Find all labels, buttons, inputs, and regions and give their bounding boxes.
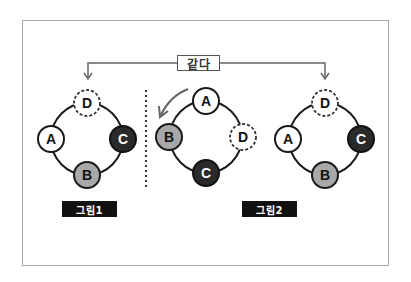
- node-c: C: [348, 126, 374, 152]
- svg-text:C: C: [118, 131, 128, 147]
- svg-text:C: C: [356, 131, 366, 147]
- svg-text:D: D: [82, 95, 92, 111]
- node-d: D: [312, 90, 338, 116]
- svg-text:D: D: [238, 129, 248, 145]
- node-b: B: [156, 124, 182, 150]
- node-a: A: [38, 126, 64, 152]
- node-d: D: [74, 90, 100, 116]
- node-a: A: [193, 88, 219, 114]
- diagram-canvas: D A C B A B D C: [0, 0, 411, 282]
- node-d: D: [230, 124, 256, 150]
- svg-text:C: C: [201, 165, 211, 181]
- svg-text:D: D: [320, 95, 330, 111]
- figure-2-label: 그림2: [242, 201, 297, 217]
- figure-1-label: 그림1: [62, 201, 117, 217]
- node-b: B: [74, 162, 100, 188]
- figure-2-rotated-diagram: A B D C: [156, 88, 256, 186]
- node-b: B: [312, 162, 338, 188]
- figure-1-diagram: D A C B: [38, 90, 136, 188]
- svg-text:A: A: [283, 131, 293, 147]
- svg-text:A: A: [46, 131, 56, 147]
- figure-2-diagram: D A C B: [275, 90, 374, 188]
- svg-text:A: A: [201, 93, 211, 109]
- node-a: A: [275, 126, 301, 152]
- equal-label-box: 같다: [177, 55, 220, 71]
- node-c: C: [110, 126, 136, 152]
- node-c: C: [193, 160, 219, 186]
- svg-text:B: B: [164, 129, 174, 145]
- rotation-arrow-icon: [159, 89, 188, 117]
- svg-text:B: B: [82, 167, 92, 183]
- svg-text:B: B: [320, 167, 330, 183]
